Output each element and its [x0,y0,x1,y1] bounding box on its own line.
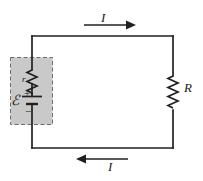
label-battery-negative: − [25,106,31,117]
circuit-loop-wires [32,36,173,148]
external-resistor-zigzag [168,76,178,108]
label-current-top: I [101,11,105,24]
circuit-diagram-figure: I I R r ℰ + − [0,0,203,181]
current-arrow-bottom [76,155,128,164]
label-emf: ℰ [11,93,19,107]
label-current-bottom: I [108,160,112,173]
label-battery-positive: + [24,88,30,99]
label-external-resistor: R [184,81,192,94]
label-internal-resistance: r [22,75,26,84]
circuit-schematic-svg [0,0,203,181]
current-arrow-top [84,21,136,30]
